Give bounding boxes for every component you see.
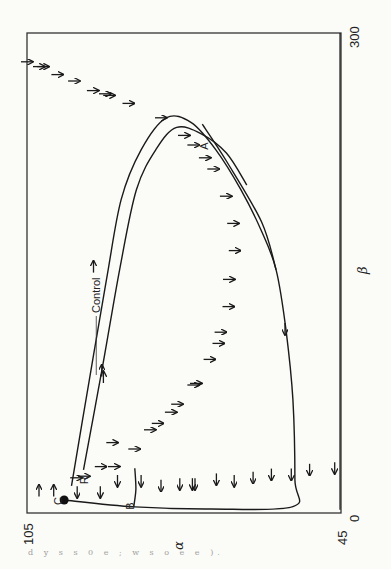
annotation-b: B (124, 502, 136, 509)
annotation-control: Control (90, 278, 102, 313)
y-axis-label: β (355, 266, 370, 275)
x-tick-45: 45 (335, 531, 350, 545)
x-tick-105: 105 (21, 523, 36, 545)
annotations: ControlABCR (52, 142, 209, 510)
phase-plot: ControlABCR 105 45 α 300 0 β (0, 0, 391, 569)
annotation-c: C (52, 497, 64, 505)
trajectories (64, 33, 340, 510)
series-B-branch (134, 468, 136, 506)
series-inner-trajectory (84, 127, 247, 470)
y-tick-300: 300 (347, 26, 362, 48)
bleed-through-text: d y s s 0 e ; w s o e e ). (28, 548, 224, 557)
annotation-a: A (198, 142, 210, 150)
annotation-r: R (78, 476, 90, 484)
y-tick-0: 0 (347, 515, 362, 522)
